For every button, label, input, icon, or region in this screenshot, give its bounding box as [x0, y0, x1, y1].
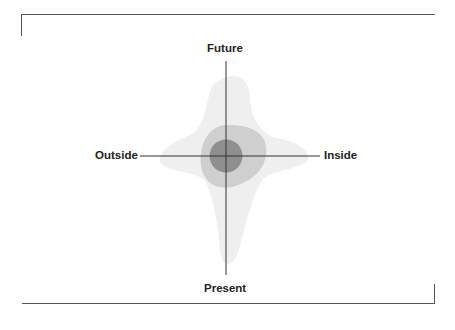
axis-label-present: Present — [204, 282, 246, 294]
axis-label-inside: Inside — [324, 149, 357, 161]
axis-label-outside: Outside — [95, 149, 138, 161]
axis-label-future: Future — [207, 42, 243, 54]
